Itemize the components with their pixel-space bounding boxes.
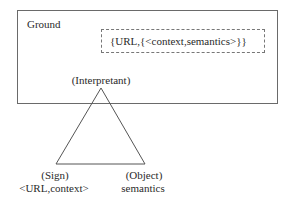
object-label: (Object): [126, 169, 163, 181]
sign-label: (Sign): [41, 169, 69, 181]
object-value: semantics: [121, 182, 164, 194]
sign-value: <URL,context>: [19, 182, 89, 194]
